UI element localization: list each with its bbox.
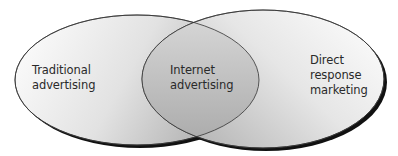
right-label-line-1: Direct bbox=[310, 53, 368, 68]
left-label-line-2: advertising bbox=[32, 78, 95, 93]
left-label-line-1: Traditional bbox=[32, 63, 95, 78]
left-set-label: Traditional advertising bbox=[32, 63, 95, 93]
right-set-label: Direct response marketing bbox=[310, 53, 368, 98]
intersection-label-line-1: Internet bbox=[170, 63, 233, 78]
intersection-label-line-2: advertising bbox=[170, 78, 233, 93]
intersection-label: Internet advertising bbox=[170, 63, 233, 93]
right-label-line-3: marketing bbox=[310, 83, 368, 98]
right-label-line-2: response bbox=[310, 68, 368, 83]
